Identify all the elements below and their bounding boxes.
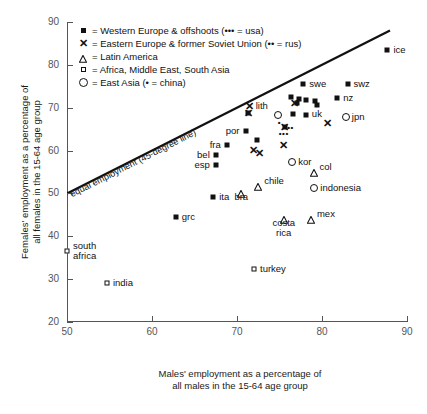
legend-item-2: = Latin America <box>76 50 301 63</box>
point-label: col <box>320 162 332 172</box>
annotation-rus-dots: •• <box>287 125 294 130</box>
annotation-china-dot: • <box>278 120 281 125</box>
legend-label: = Western Europe & offshoots (••• = usa) <box>92 24 264 37</box>
point-label: india <box>113 278 133 288</box>
y-tick <box>67 108 73 109</box>
marker-open-circle <box>342 113 350 121</box>
legend-label: = East Asia (• = china) <box>92 76 186 89</box>
marker-open-square <box>252 266 257 271</box>
legend-label: = Eastern Europe & former Soviet Union (… <box>92 37 301 50</box>
marker-x-cross: ✕ <box>323 119 331 127</box>
point-label: southafrica <box>73 241 96 261</box>
marker-filled-square <box>243 128 248 133</box>
marker-x-cross: ✕ <box>245 109 253 117</box>
x-tick <box>322 316 323 322</box>
y-tick <box>67 22 73 23</box>
legend-item-3: = Africa, Middle East, South Asia <box>76 63 301 76</box>
x-tick-label: 50 <box>52 326 82 337</box>
x-tick <box>407 316 408 322</box>
legend-marker-x-cross-icon: ✕ <box>76 40 90 48</box>
point-label: indonesia <box>320 183 361 193</box>
marker-filled-square <box>303 112 308 117</box>
x-tick <box>152 316 153 322</box>
marker-open-circle <box>79 78 88 87</box>
scatter-chart: Females' employment as a percentage of a… <box>0 0 427 414</box>
y-tick <box>67 322 73 323</box>
point-label: swz <box>354 79 370 89</box>
legend-marker-open-square-icon <box>76 67 90 72</box>
x-tick-label: 80 <box>307 326 337 337</box>
point-label: grc <box>182 212 195 222</box>
y-tick-label: 30 <box>35 273 59 284</box>
marker-filled-square <box>173 215 178 220</box>
marker-filled-square <box>291 112 296 117</box>
point-label: bra <box>234 192 248 202</box>
y-tick-label: 60 <box>35 145 59 156</box>
point-label: jpn <box>352 112 365 122</box>
point-label: ice <box>393 45 405 55</box>
marker-x-cross: ✕ <box>280 141 288 149</box>
point-label: esp <box>194 160 209 170</box>
marker-x-cross: ✕ <box>291 100 299 108</box>
y-axis-title: Females' employment as a percentage of a… <box>19 57 43 287</box>
y-axis-line <box>67 22 68 322</box>
marker-open-square <box>81 67 86 72</box>
legend-item-4: = East Asia (• = china) <box>76 76 301 89</box>
x-axis-title-line2: all males in the 15-64 age group <box>70 380 410 392</box>
marker-open-circle <box>310 184 318 192</box>
equal-employment-label: equal employment (45-degree line) <box>68 128 197 200</box>
y-tick-label: 80 <box>35 59 59 70</box>
x-tick-label: 70 <box>222 326 252 337</box>
x-tick-label: 90 <box>392 326 422 337</box>
point-label: kor <box>298 157 311 167</box>
y-tick <box>67 236 73 237</box>
marker-open-circle <box>288 158 296 166</box>
marker-triangle <box>307 210 315 218</box>
point-label: turkey <box>260 264 286 274</box>
marker-filled-square <box>213 153 218 158</box>
legend-item-0: = Western Europe & offshoots (••• = usa) <box>76 24 301 37</box>
marker-triangle <box>79 53 87 61</box>
marker-filled-square <box>385 47 390 52</box>
marker-filled-square <box>255 138 260 143</box>
point-label: ita <box>219 192 229 202</box>
point-label: uk <box>312 109 322 119</box>
legend-label: = Latin America <box>92 50 158 63</box>
y-tick <box>67 151 73 152</box>
marker-x-cross: ✕ <box>255 149 263 157</box>
marker-filled-square <box>224 143 229 148</box>
point-label: chile <box>264 176 284 186</box>
point-label: mex <box>317 209 335 219</box>
y-tick <box>67 279 73 280</box>
marker-filled-square <box>211 194 216 199</box>
point-label: por <box>226 126 240 136</box>
legend-label: = Africa, Middle East, South Asia <box>92 63 230 76</box>
marker-open-square <box>104 281 109 286</box>
legend: = Western Europe & offshoots (••• = usa)… <box>76 24 301 89</box>
marker-filled-square <box>303 98 308 103</box>
marker-x-cross: ✕ <box>79 40 87 48</box>
marker-filled-square <box>335 96 340 101</box>
marker-triangle <box>254 177 262 185</box>
y-tick-label: 90 <box>35 16 59 27</box>
x-tick <box>237 316 238 322</box>
point-label: nz <box>343 93 353 103</box>
x-tick <box>67 316 68 322</box>
legend-marker-triangle-icon <box>76 53 90 61</box>
legend-marker-open-circle-icon <box>76 78 90 87</box>
marker-filled-square <box>301 81 306 86</box>
x-tick-label: 60 <box>137 326 167 337</box>
point-label: fra <box>210 140 221 150</box>
y-axis-title-line1: Females' employment as a percentage of <box>19 57 31 287</box>
marker-open-square <box>65 249 70 254</box>
y-axis-title-line2: all females in the 15-64 age group <box>31 57 43 287</box>
point-label: swe <box>309 79 326 89</box>
y-tick-label: 40 <box>35 230 59 241</box>
legend-item-1: ✕= Eastern Europe & former Soviet Union … <box>76 37 301 50</box>
y-tick-label: 50 <box>35 187 59 198</box>
point-label: costarica <box>272 218 295 238</box>
marker-filled-square <box>345 81 350 86</box>
marker-filled-square <box>213 163 218 168</box>
marker-filled-square <box>81 28 86 33</box>
marker-filled-square <box>314 103 319 108</box>
